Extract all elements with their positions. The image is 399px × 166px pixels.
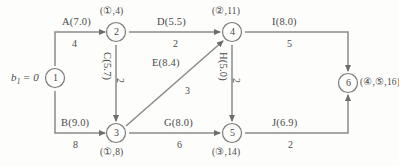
node-3-number: 3 bbox=[112, 128, 121, 138]
edge-D-name: D(5.5) bbox=[157, 17, 186, 28]
edge-G-weight: 6 bbox=[177, 140, 182, 150]
node-6-tag: (④,⑤,16) bbox=[360, 78, 399, 88]
node-1-number: 1 bbox=[51, 73, 60, 83]
edge-B-name: B(9.0) bbox=[61, 118, 89, 129]
source-supply-value: = 0 bbox=[23, 71, 39, 83]
edge-H-name: H(5.0) bbox=[218, 52, 229, 81]
edge-C-name: C(5.7) bbox=[102, 52, 113, 80]
node-2-tag: (①,4) bbox=[100, 7, 123, 17]
node-3-tag: (①,8) bbox=[100, 148, 123, 158]
edge-I-path bbox=[245, 32, 348, 71]
source-supply-label: b1= 0 bbox=[11, 72, 39, 86]
network-graph-svg bbox=[0, 0, 399, 166]
edge-B-weight: 8 bbox=[73, 140, 78, 150]
edge-I-name: I(8.0) bbox=[272, 17, 297, 28]
edge-E-path bbox=[126, 41, 223, 126]
edge-J-name: J(6.9) bbox=[272, 118, 297, 129]
edge-E-weight: 3 bbox=[185, 86, 190, 96]
node-4-tag: (②,11) bbox=[212, 7, 240, 17]
node-5-number: 5 bbox=[228, 128, 237, 138]
edge-A-weight: 4 bbox=[72, 39, 77, 49]
node-2-number: 2 bbox=[112, 27, 121, 37]
edge-E-name: E(8.4) bbox=[152, 58, 180, 69]
edge-A-path bbox=[55, 32, 105, 66]
node-4-number: 4 bbox=[228, 27, 237, 37]
edge-H-weight: 2 bbox=[231, 78, 241, 83]
network-diagram-canvas: 1 2 3 4 5 6 (①,4) (①,8) (②,11) (③,14) (④… bbox=[0, 0, 399, 166]
node-6-number: 6 bbox=[344, 78, 353, 88]
edge-G-name: G(8.0) bbox=[164, 118, 193, 129]
edge-A-name: A(7.0) bbox=[62, 17, 91, 28]
edge-C-weight: 2 bbox=[115, 78, 125, 83]
node-5-tag: (③,14) bbox=[212, 148, 240, 158]
source-supply-subscript: 1 bbox=[17, 77, 21, 86]
edge-J-weight: 2 bbox=[288, 140, 293, 150]
edge-I-weight: 5 bbox=[287, 39, 292, 49]
edge-D-weight: 2 bbox=[173, 39, 178, 49]
